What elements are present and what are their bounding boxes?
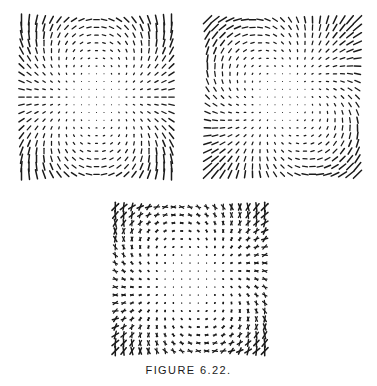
- figure-root: FIGURE 6.22.: [0, 0, 377, 386]
- panel-right-director-field: [200, 12, 365, 182]
- panel-left-director-field: [14, 12, 179, 182]
- panel-left-svg: [14, 12, 179, 182]
- panel-bottom-svg: [107, 199, 273, 359]
- panel-bottom-crossed-field: [107, 199, 273, 359]
- figure-caption: FIGURE 6.22.: [0, 364, 377, 376]
- panel-right-svg: [200, 12, 365, 182]
